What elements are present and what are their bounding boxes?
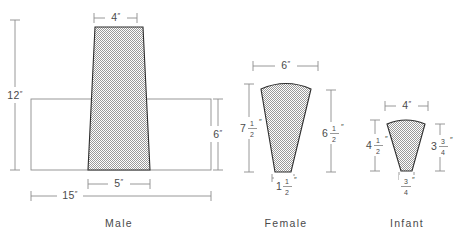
female-6half-whole: 6	[322, 127, 328, 139]
infant-4half-den: 2	[376, 148, 380, 155]
male-trapezoid	[88, 27, 150, 170]
panel-female: 6″ 7 1 2 ″ 6 1 2	[237, 58, 344, 229]
female-7half-prime: ″	[259, 117, 262, 126]
infant-dim-right-height: 3 3 4 ″	[428, 124, 453, 171]
svg-text:7: 7	[240, 122, 246, 134]
infant-3threequarter-den: 4	[441, 149, 445, 156]
female-wedge	[261, 84, 311, 173]
female-dim-right-height: 6 1 2 ″	[319, 90, 344, 172]
male-dim-rect-width: 15″	[31, 188, 211, 202]
infant-dim-base-width: 3 4 ″	[399, 172, 417, 197]
male-12-value: 12	[7, 89, 19, 101]
infant-3threequarter-num: 3	[441, 138, 445, 145]
female-1half-num: 1	[285, 178, 289, 185]
svg-text:1: 1	[276, 180, 282, 192]
infant-wedge	[387, 120, 425, 171]
panel-infant: 4″ 4 1 2 ″ 3 3 4	[363, 98, 453, 229]
male-15-value: 15	[62, 189, 74, 201]
caption-infant: Infant	[390, 217, 424, 229]
svg-text:4: 4	[366, 139, 372, 151]
female-6half-den: 2	[332, 136, 336, 143]
infant-threequarter-prime: ″	[412, 175, 415, 184]
infant-4half-whole: 4	[366, 139, 372, 151]
infant-dim-top-width: 4″	[385, 98, 428, 112]
male-dim-rect-height: 6″	[209, 99, 227, 170]
female-6half-prime: ″	[341, 122, 344, 131]
female-dim-top-width: 6″	[253, 58, 318, 72]
male-dim-top-width: 4″	[94, 10, 137, 24]
female-1half-prime: ″	[294, 175, 297, 184]
female-7half-whole: 7	[240, 122, 246, 134]
infant-3threequarter-prime: ″	[450, 135, 453, 144]
infant-4half-num: 1	[376, 137, 380, 144]
female-6half-num: 1	[332, 125, 336, 132]
male-dim-total-height: 12″	[4, 20, 27, 170]
panel-male: 4″ 12″ 6″	[4, 10, 227, 229]
caption-female: Female	[265, 217, 308, 229]
infant-threequarter-num: 3	[404, 178, 408, 185]
infant-3threequarter-whole: 3	[431, 140, 437, 152]
female-dim-left-height: 7 1 2 ″	[237, 84, 262, 172]
female-1half-whole: 1	[276, 180, 282, 192]
caption-male: Male	[105, 217, 133, 229]
infant-dim-left-height: 4 1 2 ″	[363, 120, 388, 171]
prime-glyph: ″	[118, 11, 121, 20]
female-1half-den: 2	[285, 189, 289, 196]
female-dim-base-width: 1 1 2 ″	[272, 174, 297, 198]
female-7half-num: 1	[250, 120, 254, 127]
female-7half-den: 2	[250, 131, 254, 138]
male-dim-base-width: 5″	[88, 176, 150, 190]
infant-threequarter-den: 4	[404, 189, 408, 196]
infant-4half-prime: ″	[385, 134, 388, 143]
svg-text:6: 6	[322, 127, 328, 139]
svg-text:3: 3	[431, 140, 437, 152]
diagram-canvas: 4″ 12″ 6″	[0, 0, 462, 239]
